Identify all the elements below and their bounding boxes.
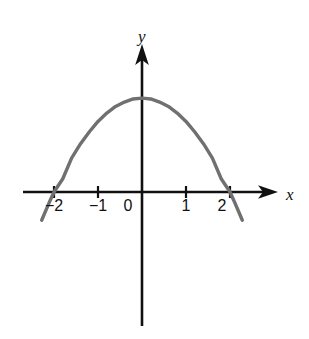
graph-canvas <box>0 0 309 339</box>
x-tick-label-zero: 0 <box>114 198 142 214</box>
x-tick-label-minus1: −1 <box>84 198 112 214</box>
x-tick-label-minus2: −2 <box>40 198 68 214</box>
y-axis-label: y <box>138 28 146 45</box>
x-axis-label: x <box>286 186 294 203</box>
x-tick-label-2: 2 <box>208 198 236 214</box>
x-tick-label-1: 1 <box>172 198 200 214</box>
parabola-figure: y x −2 −1 0 1 2 <box>0 0 309 339</box>
